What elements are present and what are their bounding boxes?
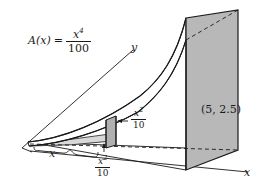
slice-height-denominator: 10 — [131, 120, 146, 130]
slice-height-label: x2 10 — [131, 107, 146, 130]
x-width-label: x — [49, 148, 55, 159]
representative-slice-face — [106, 116, 116, 148]
area-denominator: 100 — [66, 42, 91, 54]
slice-depth-numerator: x2 — [96, 155, 110, 167]
slice-depth-label: x2 10 — [95, 155, 110, 178]
endpoint-coordinate-label: (5, 2.5) — [201, 104, 241, 115]
solid-of-square-cross-sections-figure: A(x) = x4 100 x2 10 x2 10 y x x (5, 2.5) — [0, 0, 258, 192]
slice-height-numerator: x2 — [132, 107, 146, 119]
area-numerator-exponent: 4 — [79, 27, 83, 35]
x-axis-label: x — [244, 167, 250, 178]
area-function-lhs: A(x) — [28, 35, 51, 46]
area-function-label: A(x) = x4 100 — [28, 28, 91, 54]
origin-tick — [22, 148, 32, 152]
slice-depth-numerator-exponent: 2 — [103, 154, 107, 162]
end-cross-section-face — [186, 10, 238, 170]
slice-height-numerator-exponent: 2 — [139, 106, 143, 114]
slice-depth-fraction: x2 10 — [95, 155, 110, 178]
slice-depth-denominator: 10 — [95, 168, 110, 178]
slice-height-fraction: x2 10 — [131, 107, 146, 130]
area-fraction: x4 100 — [66, 28, 91, 54]
equals-sign: = — [54, 35, 63, 46]
slice-depth-arrowhead — [102, 143, 106, 148]
area-numerator: x4 — [71, 28, 86, 41]
y-axis-label: y — [131, 42, 137, 53]
